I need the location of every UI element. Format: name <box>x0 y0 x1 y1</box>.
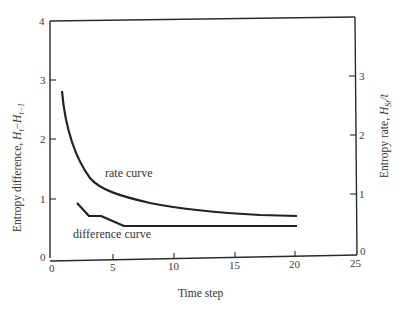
x-tick-label: 15 <box>229 259 241 271</box>
x-axis-label: Time step <box>178 287 224 300</box>
right-y-axis-label: Entropy rate, HSt/t <box>378 93 393 178</box>
entropy-chart: 0 1 2 3 4 0 1 2 3 0 5 10 15 20 25 rate c… <box>0 0 408 309</box>
right-y-ticks: 0 1 2 3 <box>349 70 366 257</box>
rate-curve-annotation: rate curve <box>105 166 153 180</box>
y-tick-label: 4 <box>39 15 45 27</box>
y-tick-label: 1 <box>40 193 46 205</box>
right-y-tick-label: 0 <box>360 245 366 257</box>
plot-frame <box>50 17 357 261</box>
y-tick-label: 2 <box>40 133 46 145</box>
right-y-tick-label: 1 <box>359 188 365 200</box>
x-tick-label: 20 <box>289 258 301 270</box>
x-ticks: 0 5 10 15 20 25 <box>49 251 362 274</box>
x-tick-label: 10 <box>168 260 180 272</box>
x-axis <box>50 255 357 261</box>
top-border <box>50 17 355 21</box>
left-y-ticks: 0 1 2 3 4 <box>39 15 56 263</box>
right-y-tick-label: 2 <box>359 129 365 141</box>
right-y-axis <box>355 17 357 255</box>
difference-curve-annotation: difference curve <box>73 227 151 241</box>
x-tick-label: 25 <box>350 257 362 269</box>
right-y-tick-label: 3 <box>359 70 365 82</box>
x-tick-label: 0 <box>49 262 55 274</box>
x-tick-label: 5 <box>110 261 116 273</box>
y-tick-label: 0 <box>40 251 46 263</box>
y-tick-label: 3 <box>40 74 46 86</box>
left-y-axis-label: Entropy difference, Ht−Ht−1 <box>11 103 26 232</box>
rate-curve-line <box>62 91 297 216</box>
